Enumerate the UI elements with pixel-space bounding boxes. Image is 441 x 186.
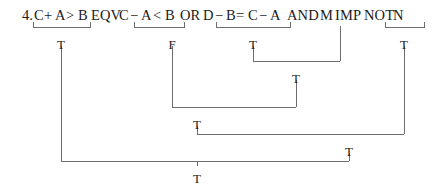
value-label-t: T [400, 38, 408, 51]
value-label-t: T [249, 38, 257, 51]
value-label-t: T [193, 118, 201, 131]
value-label-t: T [57, 38, 65, 51]
bracket-not [385, 22, 424, 27]
evaluation-tree: TFTTTTTT [0, 0, 441, 186]
value-label-t: T [345, 145, 353, 158]
value-label-f: F [168, 38, 175, 51]
expression-evaluation-figure: 4.C+A>BEQVC−A<BORD−B=C−AANDMIMPNOTN TFTT… [0, 0, 441, 186]
tree-line-graphics [0, 0, 441, 186]
bracket-relational-1 [33, 22, 90, 27]
value-label-t: T [193, 172, 201, 185]
bracket-relational-3 [216, 22, 290, 27]
bracket-relational-2 [134, 22, 184, 27]
value-label-t: T [292, 72, 300, 85]
